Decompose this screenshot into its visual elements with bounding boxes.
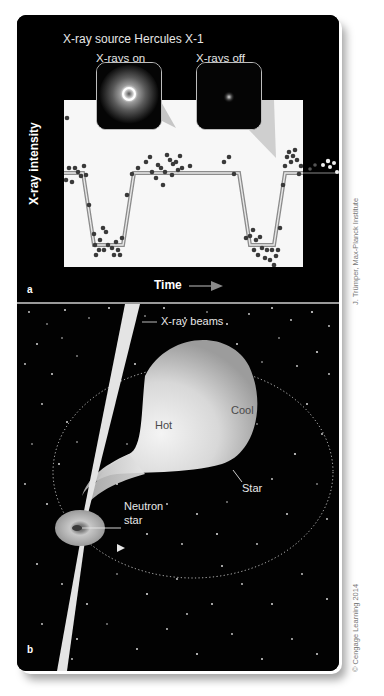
cool-label: Cool [231,404,254,416]
inset-xrays-off [196,62,262,130]
panel-a: X-ray source Hercules X-1 [17,15,339,303]
x-axis-label-text: Time [154,278,182,292]
x-axis-label: Time [154,278,223,292]
photo-credit: J. Trümper, Max-Planck Institute [351,198,360,305]
xray-beams-label: X-ray beams [161,315,223,327]
star-label: Star [242,482,262,494]
xray-beam-up [81,304,140,526]
orbit-arrow-icon [117,544,125,552]
figure-frame: X-ray source Hercules X-1 [17,15,339,671]
binary-system-illustration [17,304,339,671]
panel-a-letter: a [27,284,33,295]
arrow-right-icon [189,281,223,291]
neutron-star [72,525,82,531]
copyright-credit: © Cengage Learning 2014 [351,584,360,672]
panel-b-letter: b [27,644,33,655]
y-axis-label: X-ray intensity [27,122,41,205]
xray-on-image [97,63,161,129]
neutron-star-label-line1: Neutron [124,500,163,512]
xray-beam-down [57,526,87,671]
inset-xrays-on [96,62,162,130]
panel-b: X-ray beams Hot Cool Star Neutron star b [17,304,339,671]
hot-label: Hot [155,419,172,431]
xray-off-image [197,63,261,129]
neutron-star-label-line2: star [124,514,142,526]
overflow-points [17,15,339,303]
